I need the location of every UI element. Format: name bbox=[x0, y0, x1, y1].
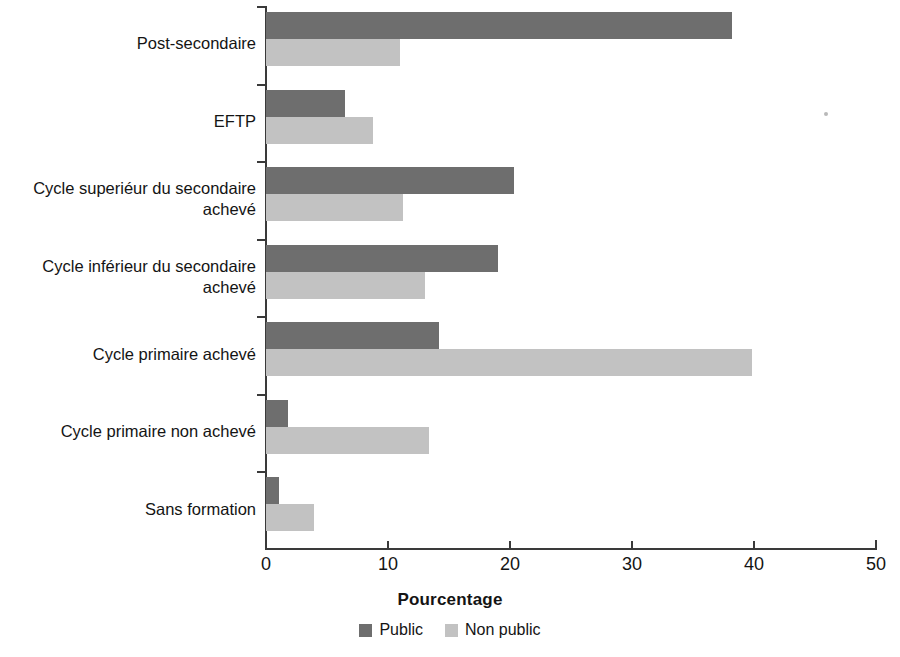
chart-legend: Public Non public bbox=[0, 621, 900, 639]
category-label: Cycle primaire achevé bbox=[93, 344, 256, 365]
plot-area bbox=[266, 6, 876, 549]
x-axis-tick bbox=[387, 541, 389, 550]
legend-item-non-public: Non public bbox=[445, 621, 541, 639]
category-label: Cycle primaire non achevé bbox=[61, 421, 256, 442]
x-axis-tick-label: 30 bbox=[612, 554, 652, 575]
x-axis-tick bbox=[265, 541, 267, 550]
bar-non-public bbox=[266, 504, 314, 531]
y-axis-tick bbox=[257, 394, 267, 396]
legend-label-non-public: Non public bbox=[465, 621, 541, 639]
bar-public bbox=[266, 322, 439, 349]
bar-chart: 01020304050 Pourcentage Public Non publi… bbox=[0, 0, 900, 657]
bar-public bbox=[266, 400, 288, 427]
bar-non-public bbox=[266, 117, 373, 144]
x-axis-tick-label: 20 bbox=[490, 554, 530, 575]
x-axis-tick-label: 10 bbox=[368, 554, 408, 575]
bar-public bbox=[266, 477, 279, 504]
bar-public bbox=[266, 167, 514, 194]
bar-group bbox=[266, 239, 876, 317]
bar-public bbox=[266, 245, 498, 272]
x-axis-title: Pourcentage bbox=[0, 590, 900, 610]
y-axis-tick bbox=[257, 239, 267, 241]
category-label: Cycle inférieur du secondaire achevé bbox=[42, 256, 256, 298]
category-label: EFTP bbox=[214, 111, 256, 132]
x-axis-tick bbox=[631, 541, 633, 550]
legend-swatch-public bbox=[359, 624, 372, 637]
x-axis-tick bbox=[753, 541, 755, 550]
legend-item-public: Public bbox=[359, 621, 423, 639]
bar-group bbox=[266, 161, 876, 239]
bar-group bbox=[266, 84, 876, 162]
x-axis-tick-label: 50 bbox=[856, 554, 896, 575]
category-label: Sans formation bbox=[145, 499, 256, 520]
x-axis-tick bbox=[509, 541, 511, 550]
bar-non-public bbox=[266, 194, 403, 221]
category-label: Post-secondaire bbox=[137, 33, 256, 54]
x-axis-tick bbox=[875, 541, 877, 550]
bar-non-public bbox=[266, 427, 429, 454]
bar-group bbox=[266, 394, 876, 472]
bar-non-public bbox=[266, 39, 400, 66]
bar-non-public bbox=[266, 272, 425, 299]
bar-public bbox=[266, 12, 732, 39]
category-label: Cycle superiéur du secondaire achevé bbox=[33, 178, 256, 220]
y-axis-tick bbox=[257, 316, 267, 318]
bar-non-public bbox=[266, 349, 752, 376]
legend-swatch-non-public bbox=[445, 624, 458, 637]
x-axis-tick-label: 0 bbox=[246, 554, 286, 575]
bar-group bbox=[266, 471, 876, 549]
bar-group bbox=[266, 316, 876, 394]
y-axis-tick bbox=[257, 471, 267, 473]
bar-public bbox=[266, 90, 345, 117]
x-axis-tick-label: 40 bbox=[734, 554, 774, 575]
y-axis-tick bbox=[257, 161, 267, 163]
bar-group bbox=[266, 6, 876, 84]
y-axis-tick bbox=[257, 84, 267, 86]
legend-label-public: Public bbox=[379, 621, 423, 639]
